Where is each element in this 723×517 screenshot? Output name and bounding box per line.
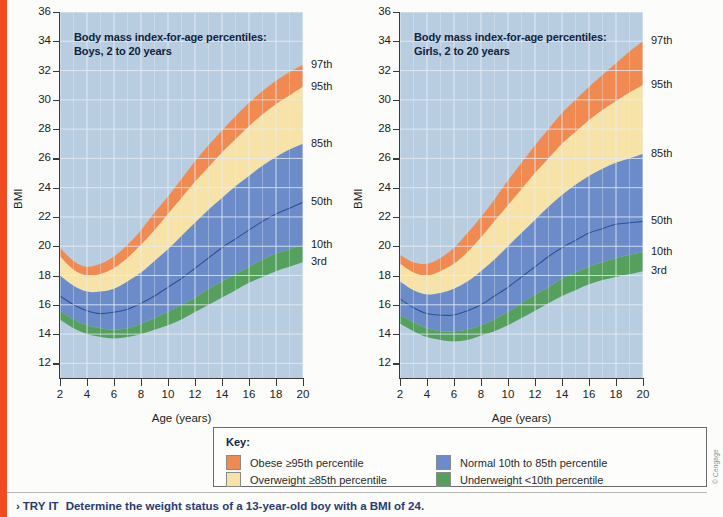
swatch-underweight-icon [436,472,451,487]
y-axis-line-girls [399,12,400,378]
x-tick-label-girls-10: 10 [494,389,522,401]
key-label-normal: Normal 10th to 85th percentile [460,457,607,469]
key-item-overweight: Overweight ≥85th percentile [226,472,387,487]
y-tick-label-girls-14: 14 [360,328,391,340]
y-tick-girls-26 [393,158,400,159]
y-tick-girls-24 [393,188,400,189]
y-tick-label-girls-16: 16 [360,299,391,311]
y-tick-label-girls-22: 22 [360,211,391,223]
y-tick-girls-18 [393,276,400,277]
y-tick-girls-12 [393,363,400,364]
try-it-label: TRY IT [23,500,59,512]
y-tick-girls-14 [393,334,400,335]
y-tick-girls-32 [393,71,400,72]
x-tick-girls-10 [508,379,509,386]
plot-area-girls [400,12,643,378]
y-tick-girls-20 [393,246,400,247]
x-axis-line-girls [399,378,644,379]
x-tick-label-girls-4: 4 [413,389,441,401]
y-tick-girls-36 [393,12,400,13]
swatch-overweight-icon [226,472,241,487]
x-tick-girls-8 [481,379,482,386]
footer-divider [7,492,707,493]
swatch-normal-icon [436,455,451,470]
page-root: Body mass index-for-age percentiles: Boy… [0,0,723,517]
y-tick-girls-30 [393,100,400,101]
key-item-obese: Obese ≥95th percentile [226,455,364,470]
key-label-obese: Obese ≥95th percentile [250,457,364,469]
x-tick-label-girls-6: 6 [440,389,468,401]
y-tick-girls-22 [393,217,400,218]
x-tick-label-girls-16: 16 [575,389,603,401]
y-tick-label-girls-34: 34 [360,35,391,47]
key-item-underweight: Underweight <10th percentile [436,472,603,487]
y-tick-label-girls-20: 20 [360,240,391,252]
x-tick-label-girls-20: 20 [629,389,657,401]
key-title: Key: [226,436,250,448]
x-tick-girls-20 [643,379,644,386]
x-tick-label-girls-8: 8 [467,389,495,401]
x-tick-girls-14 [562,379,563,386]
y-tick-label-girls-24: 24 [360,182,391,194]
x-tick-label-girls-18: 18 [602,389,630,401]
percentile-label-girls-3rd: 3rd [651,265,667,276]
percentile-label-girls-50th: 50th [651,215,672,226]
x-tick-girls-12 [535,379,536,386]
percentile-bands-girls [400,12,643,378]
x-tick-label-girls-2: 2 [386,389,414,401]
x-tick-girls-6 [454,379,455,386]
key-item-normal: Normal 10th to 85th percentile [436,455,607,470]
chart-title-girls: Body mass index-for-age percentiles: Gir… [414,30,607,58]
percentile-label-girls-95th: 95th [651,79,672,90]
copyright-notice: © Cengage [712,449,719,484]
swatch-obese-icon [226,455,241,470]
try-it-prompt: ›TRY ITDetermine the weight status of a … [16,500,424,512]
x-tick-girls-4 [427,379,428,386]
y-tick-label-girls-30: 30 [360,94,391,106]
x-tick-label-girls-14: 14 [548,389,576,401]
y-tick-girls-16 [393,305,400,306]
x-tick-girls-16 [589,379,590,386]
y-tick-girls-28 [393,129,400,130]
x-tick-girls-2 [400,379,401,386]
key-legend-box: Key: Obese ≥95th percentile Overweight ≥… [213,427,707,487]
percentile-label-girls-10th: 10th [651,246,672,257]
x-axis-title-girls: Age (years) [400,412,643,424]
y-tick-label-girls-28: 28 [360,123,391,135]
y-tick-label-girls-18: 18 [360,270,391,282]
try-it-chevron-icon: › [16,500,20,512]
chart-girls: Body mass index-for-age percentiles: Gir… [0,0,723,420]
key-label-overweight: Overweight ≥85th percentile [250,474,387,486]
percentile-label-girls-97th: 97th [651,35,672,46]
y-tick-label-girls-36: 36 [360,6,391,18]
try-it-text: Determine the weight status of a 13-year… [66,500,424,512]
x-tick-girls-18 [616,379,617,386]
y-tick-label-girls-12: 12 [360,357,391,369]
x-tick-label-girls-12: 12 [521,389,549,401]
y-tick-label-girls-26: 26 [360,152,391,164]
y-tick-girls-34 [393,41,400,42]
y-tick-label-girls-32: 32 [360,65,391,77]
percentile-label-girls-85th: 85th [651,148,672,159]
key-label-underweight: Underweight <10th percentile [460,474,603,486]
